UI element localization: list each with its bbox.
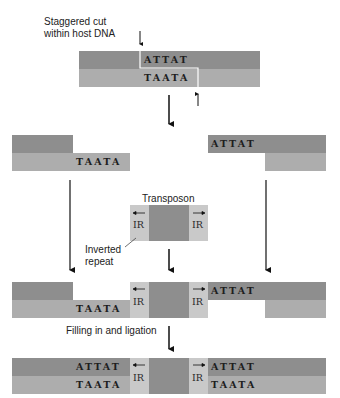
ir-leader-line <box>125 238 136 247</box>
cut-line <box>140 51 198 87</box>
arrows-layer <box>0 0 340 398</box>
